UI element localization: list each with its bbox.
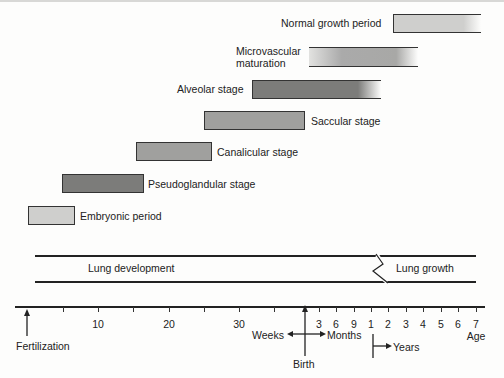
years-arrow-icon [372,334,394,360]
lung-growth-label: Lung growth [396,262,454,274]
stage-bar [252,80,381,99]
tick [239,307,240,312]
age-axis-label: Age [467,330,486,342]
stage-bar [204,111,305,130]
band-bottom-line [35,281,476,283]
tick [169,307,170,312]
years-label: Years [393,341,419,353]
tick [63,307,64,312]
tick-label: 30 [233,318,245,330]
tick-label: 6 [455,318,461,330]
fertilization-arrow-icon [22,309,32,341]
stage-bar [28,206,75,225]
tick [406,307,407,312]
birth-label: Birth [293,358,315,370]
stage-bar [393,14,481,33]
tick [423,307,424,312]
stage-label: Alveolar stage [177,83,244,95]
tick [336,307,337,312]
stage-label: Canalicular stage [217,146,298,158]
tick-label: 5 [438,318,444,330]
stage-label: Saccular stage [311,115,380,127]
top-border [0,0,504,2]
tick-label: 10 [92,318,104,330]
lung-development-label: Lung development [88,262,174,274]
tick-label: 3 [403,318,409,330]
tick-label: 4 [420,318,426,330]
weeks-label: Weeks [252,329,284,341]
stage-label: Normal growth period [281,17,381,29]
tick [441,307,442,312]
stage-bar [62,174,144,193]
tick [388,307,389,312]
tick-label: 7 [473,318,479,330]
tick-label: 2 [385,318,391,330]
tick-label: 20 [163,318,175,330]
tick [133,307,134,312]
tick [476,307,477,312]
tick [204,307,205,312]
tick [98,307,99,312]
stage-label-line1: Microvascular [236,45,301,57]
tick [371,307,372,312]
fertilization-label: Fertilization [16,340,70,352]
tick [274,307,275,312]
tick [354,307,355,312]
stage-bar [309,47,418,67]
stage-label-line2: maturation [236,57,286,69]
stage-label: Pseudoglandular stage [148,178,255,190]
axis-line [15,306,485,308]
tick [458,307,459,312]
months-label: Months [327,329,361,341]
tick-label: 1 [368,318,374,330]
stage-bar [136,142,212,161]
stage-label: Embryonic period [80,210,162,222]
band-top-line [35,255,476,257]
double-arrow-icon [287,329,327,339]
tick [319,307,320,312]
